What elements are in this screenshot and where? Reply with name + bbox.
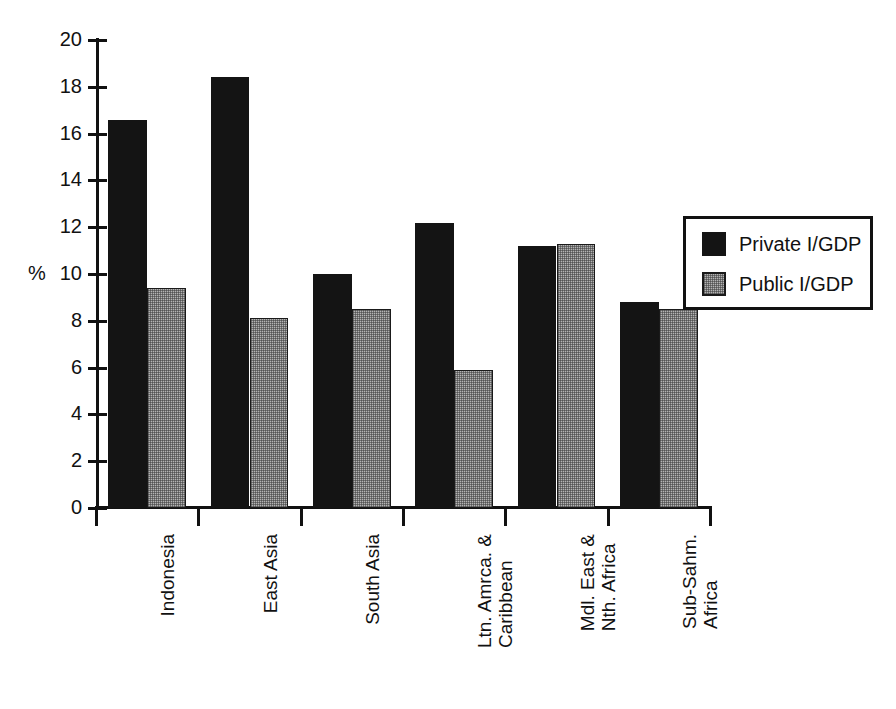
x-axis-tick xyxy=(709,506,712,526)
x-axis-tick xyxy=(607,506,610,526)
category-label-line: Africa xyxy=(700,534,721,629)
y-axis-tick-label-wrap: 18 xyxy=(0,76,82,96)
plot-area xyxy=(96,40,710,508)
bar-public xyxy=(352,309,391,508)
category-label: Indonesia xyxy=(157,534,178,616)
category-label-line: South Asia xyxy=(362,534,383,625)
y-axis-tick-label: 16 xyxy=(0,123,82,143)
x-axis-tick xyxy=(402,506,405,526)
legend-label-private: Private I/GDP xyxy=(739,234,861,254)
category-label-line: East Asia xyxy=(260,534,281,613)
y-axis-tick-label-wrap: 12 xyxy=(0,216,82,236)
y-axis-unit-label: % xyxy=(28,263,46,283)
y-axis-tick-label-wrap: 0 xyxy=(0,497,82,517)
category-label-line: Mdl. East & xyxy=(577,534,598,631)
bar-private xyxy=(415,223,454,508)
legend-entry-private: Private I/GDP xyxy=(702,232,861,256)
x-axis-tick xyxy=(504,506,507,526)
y-axis-tick-label: 2 xyxy=(0,450,82,470)
x-axis-tick xyxy=(300,506,303,526)
y-axis-tick-label: 14 xyxy=(0,169,82,189)
y-axis-tick-label: 6 xyxy=(0,357,82,377)
y-axis-tick-label: 18 xyxy=(0,76,82,96)
legend-label-public: Public I/GDP xyxy=(739,274,853,294)
category-label-line: Sub-Sahm. xyxy=(679,534,700,629)
bar-chart: 02468101214161820 % IndonesiaEast AsiaSo… xyxy=(0,0,896,709)
y-axis-tick-label-wrap: 6 xyxy=(0,357,82,377)
category-label-line: Ltn. Amrca. & xyxy=(474,534,495,648)
category-label-line: Indonesia xyxy=(157,534,178,616)
legend-swatch-private-icon xyxy=(702,232,726,256)
legend-swatch-public-icon xyxy=(702,272,726,296)
y-axis-tick-label-wrap: 8 xyxy=(0,310,82,330)
y-axis-tick-label-wrap: 16 xyxy=(0,123,82,143)
legend-entry-public: Public I/GDP xyxy=(702,272,853,296)
x-axis-tick xyxy=(95,506,98,526)
bar-public xyxy=(659,309,698,508)
bar-public xyxy=(557,244,596,508)
y-axis-tick-label: 4 xyxy=(0,403,82,423)
category-label: East Asia xyxy=(260,534,281,613)
bar-private xyxy=(211,77,250,508)
category-label: Sub-Sahm.Africa xyxy=(679,534,721,629)
y-axis-tick-label: 20 xyxy=(0,29,82,49)
y-axis-tick-label-wrap: 4 xyxy=(0,403,82,423)
category-label: Ltn. Amrca. &Caribbean xyxy=(474,534,516,648)
category-label: South Asia xyxy=(362,534,383,625)
bar-private xyxy=(518,246,557,508)
y-axis-tick-label-wrap: 14 xyxy=(0,169,82,189)
legend: Private I/GDP Public I/GDP xyxy=(683,216,873,310)
bar-private xyxy=(108,120,147,508)
bar-public xyxy=(147,288,186,508)
bar-private xyxy=(620,302,659,508)
category-label-line: Caribbean xyxy=(495,534,516,648)
category-label: Mdl. East &Nth. Africa xyxy=(577,534,619,631)
bar-public xyxy=(250,318,289,508)
x-axis-tick xyxy=(197,506,200,526)
bar-private xyxy=(313,274,352,508)
bar-public xyxy=(454,370,493,508)
y-axis-tick-label-wrap: 20 xyxy=(0,29,82,49)
y-axis-tick-label-wrap: 2 xyxy=(0,450,82,470)
bars-layer xyxy=(96,40,710,508)
category-label-line: Nth. Africa xyxy=(598,534,619,631)
y-axis-tick-label: 0 xyxy=(0,497,82,517)
y-axis-tick-label: 8 xyxy=(0,310,82,330)
y-axis-tick-label: 12 xyxy=(0,216,82,236)
